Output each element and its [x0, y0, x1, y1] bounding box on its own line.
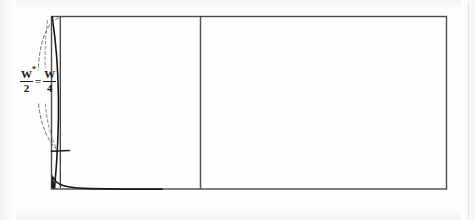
numerator-symbol: W: [21, 68, 32, 80]
figure-root: W* 2 = W 4: [0, 0, 475, 220]
fraction-denominator: 2: [23, 83, 31, 95]
fraction-w-over-4: W 4: [43, 69, 56, 94]
dashed-leader-arc-inner: [45, 21, 47, 69]
fraction-w-star-over-2: W* 2: [20, 69, 33, 94]
fraction-numerator: W*: [20, 69, 33, 81]
dimension-callout: W* 2 = W 4: [20, 69, 56, 94]
fraction-denominator: 4: [46, 83, 54, 95]
tick-cross-mark: [52, 150, 70, 151]
slanted-taper-line: [52, 17, 58, 188]
outer-rectangle: [52, 17, 447, 190]
dashed-leader-arc-outer-lower: [39, 104, 58, 151]
numerator-superscript: *: [32, 66, 36, 74]
equals-sign: =: [35, 76, 41, 87]
exponential-decay-curve: [53, 178, 162, 190]
figure-drawing: [0, 0, 475, 220]
fraction-numerator: W: [43, 69, 56, 81]
